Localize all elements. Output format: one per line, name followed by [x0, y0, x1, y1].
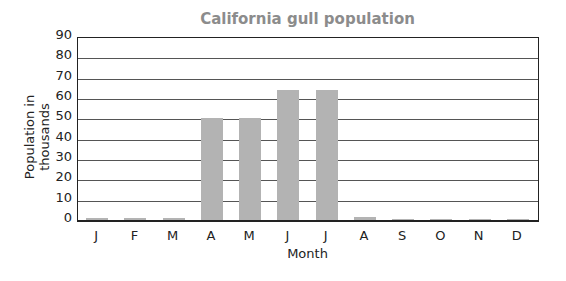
plot-area	[77, 37, 539, 222]
x-tick-label: F	[115, 228, 153, 243]
gridline	[78, 58, 538, 59]
y-tick-label: 20	[40, 170, 72, 184]
bar	[277, 90, 299, 220]
bar	[469, 219, 491, 221]
gridline	[78, 201, 538, 202]
y-tick-label: 60	[40, 89, 72, 103]
gridline	[78, 99, 538, 100]
y-tick-label: 50	[40, 109, 72, 123]
y-tick-label: 90	[40, 28, 72, 42]
bar	[354, 217, 376, 220]
bar	[124, 218, 146, 220]
y-tick-label: 30	[40, 150, 72, 164]
bar	[239, 118, 261, 220]
gridline	[78, 140, 538, 141]
x-tick-label: D	[498, 228, 536, 243]
gridline	[78, 180, 538, 181]
gridline	[78, 79, 538, 80]
bar	[392, 219, 414, 221]
y-tick-label: 80	[40, 48, 72, 62]
x-tick-label: N	[460, 228, 498, 243]
x-tick-label: J	[268, 228, 306, 243]
bar	[201, 118, 223, 220]
bar	[430, 219, 452, 221]
x-tick-label: J	[77, 228, 115, 243]
x-axis-label: Month	[75, 246, 540, 261]
bar	[86, 218, 108, 220]
x-tick-label: M	[154, 228, 192, 243]
y-tick-label: 10	[40, 191, 72, 205]
y-tick-label: 70	[40, 69, 72, 83]
bar	[507, 219, 529, 221]
chart-title: California gull population	[75, 10, 540, 28]
x-tick-label: S	[383, 228, 421, 243]
x-tick-label: A	[192, 228, 230, 243]
y-tick-label: 0	[40, 211, 72, 225]
x-tick-label: O	[421, 228, 459, 243]
x-tick-label: J	[307, 228, 345, 243]
bar	[316, 90, 338, 220]
x-tick-label: A	[345, 228, 383, 243]
gridline	[78, 160, 538, 161]
y-tick-label: 40	[40, 130, 72, 144]
x-tick-label: M	[230, 228, 268, 243]
gridline	[78, 119, 538, 120]
bar	[163, 218, 185, 220]
